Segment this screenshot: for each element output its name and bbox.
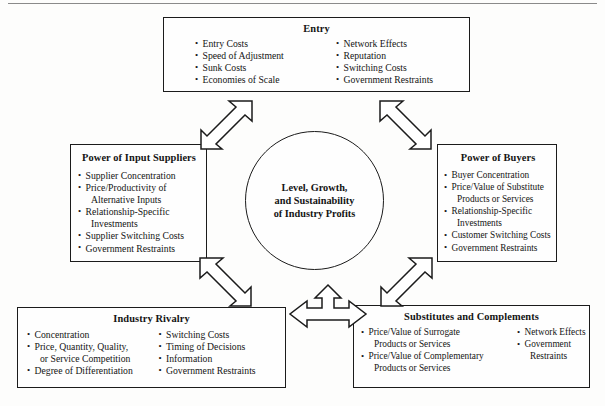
list-item-continuation: Investments	[444, 218, 552, 230]
list-item-continuation: Products or Services	[361, 339, 511, 351]
list-item: Economies of Scale	[195, 74, 328, 86]
list-item: Relationship-Specific	[78, 206, 200, 218]
list-item: Degree of Differentiation	[27, 365, 154, 377]
center-line-1: Level, Growth,	[274, 181, 356, 194]
list-item: Government Restraints	[159, 365, 286, 377]
box-substitutes-list-right: Network Effects Government Restraints	[517, 327, 589, 363]
list-item: Price/Value of Surrogate	[361, 327, 511, 339]
list-item: Price/Value of Complementary	[361, 351, 511, 363]
box-suppliers-title: Power of Input Suppliers	[78, 152, 200, 164]
list-item: Network Effects	[517, 327, 589, 339]
center-line-3: of Industry Profits	[274, 207, 356, 220]
list-item-continuation: Investments	[78, 218, 200, 230]
box-entry-column-right: Network Effects Reputation Switching Cos…	[328, 38, 469, 86]
list-item: Entry Costs	[195, 38, 328, 50]
page-top-rule	[8, 3, 597, 4]
box-entry-list-left: Entry Costs Speed of Adjustment Sunk Cos…	[195, 38, 328, 86]
list-item: Supplier Switching Costs	[78, 230, 200, 242]
box-rivalry-list-left: Concentration Price, Quantity, Quality, …	[27, 329, 154, 377]
box-industry-rivalry[interactable]: Industry Rivalry Concentration Price, Qu…	[17, 307, 286, 388]
list-item: Concentration	[27, 329, 154, 341]
diagram-canvas: Entry Entry Costs Speed of Adjustment Su…	[0, 0, 605, 406]
list-item: Government Restraints	[78, 243, 200, 255]
list-item-continuation: or Service Competition	[27, 353, 154, 365]
list-item: Sunk Costs	[195, 62, 328, 74]
box-rivalry-columns: Concentration Price, Quantity, Quality, …	[18, 325, 285, 377]
box-substitutes-list-left: Price/Value of Surrogate Products or Ser…	[361, 327, 511, 375]
center-circle-industry-profits[interactable]: Level, Growth, and Sustainability of Ind…	[245, 131, 384, 270]
list-item: Buyer Concentration	[444, 170, 552, 182]
box-suppliers-list: Supplier Concentration Price/Productivit…	[78, 170, 200, 254]
box-substitutes-column-left: Price/Value of Surrogate Products or Ser…	[354, 327, 511, 375]
box-substitutes-and-complements[interactable]: Substitutes and Complements Price/Value …	[353, 305, 590, 388]
box-rivalry-column-right: Switching Costs Timing of Decisions Info…	[154, 329, 286, 377]
box-entry-title: Entry	[164, 23, 469, 35]
box-entry-columns: Entry Costs Speed of Adjustment Sunk Cos…	[164, 35, 469, 86]
arrow-center-bottom-three-way-icon	[287, 283, 369, 337]
list-item: Switching Costs	[159, 329, 286, 341]
box-rivalry-list-right: Switching Costs Timing of Decisions Info…	[159, 329, 286, 377]
arrow-rivalry-buyers-icon	[376, 256, 436, 308]
box-power-of-buyers[interactable]: Power of Buyers Buyer Concentration Pric…	[437, 144, 557, 262]
box-rivalry-column-left: Concentration Price, Quantity, Quality, …	[18, 329, 154, 377]
list-item: Price/Productivity of	[78, 182, 200, 194]
list-item: Speed of Adjustment	[195, 50, 328, 62]
center-line-2: and Sustainability	[274, 194, 356, 207]
box-buyers-title: Power of Buyers	[444, 152, 552, 164]
list-item: Price, Quantity, Quality,	[27, 341, 154, 353]
box-entry-column-left: Entry Costs Speed of Adjustment Sunk Cos…	[164, 38, 328, 86]
box-substitutes-columns: Price/Value of Surrogate Products or Ser…	[354, 323, 589, 375]
center-circle-text: Level, Growth, and Sustainability of Ind…	[262, 181, 368, 220]
box-substitutes-title: Substitutes and Complements	[354, 311, 589, 323]
list-item: Switching Costs	[336, 62, 469, 74]
box-entry-list-right: Network Effects Reputation Switching Cos…	[336, 38, 469, 86]
arrow-rivalry-suppliers-icon	[196, 256, 256, 308]
box-buyers-list: Buyer Concentration Price/Value of Subst…	[444, 170, 552, 254]
box-power-of-input-suppliers[interactable]: Power of Input Suppliers Supplier Concen…	[70, 144, 207, 262]
list-item: Network Effects	[336, 38, 469, 50]
list-item: Customer Switching Costs	[444, 230, 552, 242]
list-item-continuation: Alternative Inputs	[78, 194, 200, 206]
list-item: Price/Value of Substitute	[444, 182, 552, 194]
list-item: Supplier Concentration	[78, 170, 200, 182]
list-item: Government Restraints	[444, 243, 552, 255]
arrow-entry-buyers-icon	[376, 99, 436, 151]
list-item: Information	[159, 353, 286, 365]
list-item-continuation: Restraints	[517, 351, 589, 363]
list-item: Reputation	[336, 50, 469, 62]
list-item: Relationship-Specific	[444, 206, 552, 218]
list-item-continuation: Products or Services	[361, 363, 511, 375]
box-substitutes-column-right: Network Effects Government Restraints	[511, 327, 589, 375]
box-entry[interactable]: Entry Entry Costs Speed of Adjustment Su…	[163, 17, 470, 92]
box-rivalry-title: Industry Rivalry	[18, 313, 285, 325]
list-item: Government Restraints	[336, 74, 469, 86]
list-item: Government	[517, 339, 589, 351]
list-item: Timing of Decisions	[159, 341, 286, 353]
list-item-continuation: Products or Services	[444, 194, 552, 206]
arrow-entry-suppliers-icon	[196, 99, 256, 151]
